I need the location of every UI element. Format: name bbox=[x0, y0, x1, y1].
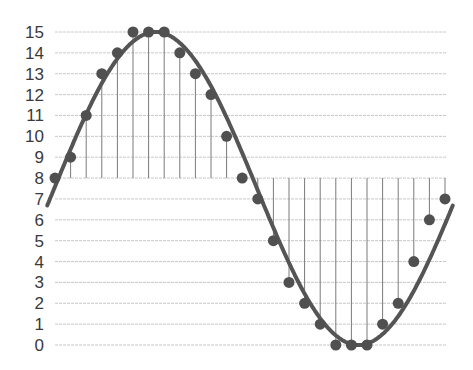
sample-point bbox=[346, 340, 357, 351]
sample-point bbox=[206, 89, 217, 100]
sample-point bbox=[128, 27, 139, 38]
y-tick-label: 10 bbox=[25, 127, 44, 146]
sample-point bbox=[221, 131, 232, 142]
y-tick-label: 9 bbox=[35, 148, 44, 167]
y-axis-labels: 0123456789101112131415 bbox=[25, 23, 44, 355]
sample-point bbox=[424, 214, 435, 225]
y-tick-label: 4 bbox=[35, 253, 44, 272]
y-tick-label: 1 bbox=[35, 315, 44, 334]
sample-point bbox=[330, 340, 341, 351]
y-tick-label: 14 bbox=[25, 44, 44, 63]
sample-point bbox=[362, 340, 373, 351]
sample-point bbox=[174, 47, 185, 58]
sample-points bbox=[50, 27, 451, 351]
sample-point bbox=[299, 298, 310, 309]
sample-point bbox=[112, 47, 123, 58]
y-tick-label: 12 bbox=[25, 86, 44, 105]
y-tick-label: 6 bbox=[35, 211, 44, 230]
y-tick-label: 8 bbox=[35, 169, 44, 188]
sample-point bbox=[65, 152, 76, 163]
sample-point bbox=[268, 235, 279, 246]
sample-point bbox=[252, 193, 263, 204]
sample-point bbox=[440, 193, 451, 204]
sample-point bbox=[81, 110, 92, 121]
sample-point bbox=[96, 68, 107, 79]
sample-point bbox=[393, 298, 404, 309]
horizontal-gridlines bbox=[55, 32, 447, 345]
sample-point bbox=[315, 319, 326, 330]
y-tick-label: 13 bbox=[25, 65, 44, 84]
y-tick-label: 11 bbox=[26, 106, 44, 125]
y-tick-label: 2 bbox=[35, 294, 44, 313]
y-tick-label: 0 bbox=[35, 336, 44, 355]
sample-point bbox=[50, 173, 61, 184]
y-tick-label: 3 bbox=[35, 273, 44, 292]
sample-point bbox=[408, 256, 419, 267]
sample-point bbox=[284, 277, 295, 288]
sample-point bbox=[237, 173, 248, 184]
sample-point bbox=[143, 27, 154, 38]
y-tick-label: 7 bbox=[35, 190, 44, 209]
sample-point bbox=[377, 319, 388, 330]
y-tick-label: 5 bbox=[35, 232, 44, 251]
sample-point bbox=[190, 68, 201, 79]
sample-stems bbox=[55, 32, 445, 345]
sine-sample-chart: 0123456789101112131415 bbox=[0, 0, 473, 370]
y-tick-label: 15 bbox=[25, 23, 44, 42]
sine-curve bbox=[47, 32, 453, 345]
sample-point bbox=[159, 27, 170, 38]
